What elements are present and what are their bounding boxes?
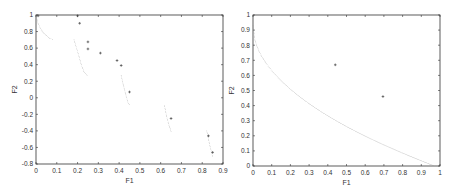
pareto-front-point: [415, 158, 416, 159]
x-tick-label: 0.4: [115, 167, 124, 174]
pareto-front-point: [334, 119, 335, 120]
pareto-front-point: [294, 92, 295, 93]
pareto-front-point: [253, 31, 254, 32]
y-tick-label: 0.9: [241, 26, 250, 33]
solution-marker: [99, 52, 102, 55]
pareto-front-point: [164, 106, 165, 107]
pareto-front-point: [287, 86, 288, 87]
pareto-front-point: [321, 112, 322, 113]
pareto-front-point: [206, 131, 207, 132]
pareto-front-point: [336, 121, 337, 122]
pareto-front-point: [368, 137, 369, 138]
pareto-front-point: [396, 150, 397, 151]
pareto-front-point: [254, 37, 255, 38]
pareto-front-point: [76, 48, 77, 49]
pareto-front-point: [271, 70, 272, 71]
pareto-front-point: [262, 57, 263, 58]
pareto-front-point: [304, 100, 305, 101]
x-axis-label: F1: [342, 179, 350, 186]
pareto-front-point: [169, 126, 170, 127]
x-tick-label: 0.9: [417, 169, 426, 176]
pareto-front-point: [79, 57, 80, 58]
pareto-front-point: [272, 71, 273, 72]
y-tick-label: 0.8: [24, 28, 33, 35]
solution-marker: [87, 48, 90, 51]
x-tick-label: 0: [251, 169, 255, 176]
x-tick-label: 0.8: [398, 169, 407, 176]
x-tick-label: 1: [438, 169, 442, 176]
pareto-front-point: [380, 143, 381, 144]
y-axis-label: F2: [228, 86, 235, 94]
pareto-front-point: [48, 37, 49, 38]
pareto-front-point: [390, 147, 391, 148]
pareto-front-point: [322, 112, 323, 113]
x-tick-label: 0.2: [286, 169, 295, 176]
x-tick-label: 0.3: [305, 169, 314, 176]
pareto-front-point: [210, 148, 211, 149]
pareto-front-point: [307, 102, 308, 103]
pareto-front-point: [278, 78, 279, 79]
pareto-front-point: [395, 150, 396, 151]
pareto-front-point: [398, 151, 399, 152]
pareto-front-point: [356, 131, 357, 132]
pareto-front-point: [296, 94, 297, 95]
pareto-front-point: [123, 83, 124, 84]
pareto-front-point: [269, 67, 270, 68]
pareto-front-point: [428, 163, 429, 164]
pareto-front-point: [394, 149, 395, 150]
solution-marker: [120, 64, 123, 67]
y-tick-label: 0.5: [241, 87, 250, 94]
pareto-front-point: [366, 136, 367, 137]
pareto-front-point: [314, 107, 315, 108]
pareto-front-point: [429, 164, 430, 165]
pareto-front-point: [75, 44, 76, 45]
y-tick-label: 0.3: [241, 117, 250, 124]
y-tick-label: -0.4: [22, 127, 34, 134]
pareto-front-point: [392, 148, 393, 149]
pareto-front-point: [308, 103, 309, 104]
pareto-front-point: [169, 127, 170, 128]
pareto-front-point: [212, 156, 213, 157]
pareto-front-point: [256, 44, 257, 45]
pareto-front-point: [404, 153, 405, 154]
pareto-front-point: [301, 98, 302, 99]
pareto-front-point: [80, 60, 81, 61]
pareto-front-point: [320, 111, 321, 112]
pareto-front-point: [359, 133, 360, 134]
left-plot: 00.10.20.30.40.50.60.70.80.9-0.8-0.6-0.4…: [11, 11, 228, 184]
pareto-front-point: [369, 137, 370, 138]
pareto-front-point: [413, 157, 414, 158]
pareto-front-point: [253, 27, 254, 28]
solution-marker: [382, 95, 385, 98]
pareto-front-point: [263, 59, 264, 60]
pareto-front-point: [388, 146, 389, 147]
pareto-front-point: [253, 29, 254, 30]
pareto-front-point: [421, 160, 422, 161]
pareto-front-point: [358, 132, 359, 133]
pareto-front-point: [270, 68, 271, 69]
pareto-front-point: [86, 74, 87, 75]
pareto-front-point: [349, 128, 350, 129]
pareto-front-point: [164, 105, 165, 106]
pareto-front-point: [346, 126, 347, 127]
plot-frame: [36, 15, 223, 164]
pareto-front-point: [123, 84, 124, 85]
pareto-front-point: [277, 76, 278, 77]
x-tick-label: 0.1: [52, 167, 61, 174]
pareto-front-point: [328, 116, 329, 117]
pareto-front-point: [342, 124, 343, 125]
pareto-front-point: [166, 112, 167, 113]
pareto-front-point: [259, 52, 260, 53]
pareto-front-point: [87, 75, 88, 76]
pareto-front-point: [261, 56, 262, 57]
pareto-front-point: [74, 41, 75, 42]
pareto-front-point: [37, 20, 38, 21]
pareto-front-point: [285, 84, 286, 85]
pareto-front-point: [43, 33, 44, 34]
x-tick-label: 0.2: [73, 167, 82, 174]
pareto-front-point: [261, 55, 262, 56]
pareto-front-point: [168, 123, 169, 124]
pareto-front-point: [74, 39, 75, 40]
pareto-front-point: [122, 80, 123, 81]
solution-marker: [334, 64, 337, 67]
